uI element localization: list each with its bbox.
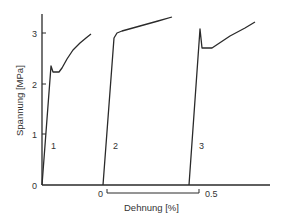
scale-end-label: 0.5 [205, 189, 218, 199]
scale-start-label: 0 [98, 189, 103, 199]
ytick-2: 2 [32, 80, 37, 90]
stress-strain-chart: 3 2 1 0 Spannung [MPa] 1 2 3 0 0.5 Dehnu… [0, 0, 283, 218]
curve-1 [42, 34, 91, 185]
curve-label-1: 1 [51, 141, 56, 151]
ytick-0: 0 [32, 181, 37, 191]
ytick-1: 1 [32, 130, 37, 140]
curve-label-3: 3 [199, 141, 204, 151]
x-scale-bar [107, 189, 199, 193]
curve-3 [189, 22, 255, 185]
curve-label-2: 2 [113, 141, 118, 151]
ytick-3: 3 [32, 29, 37, 39]
y-axis-label: Spannung [MPa] [14, 65, 25, 136]
x-axis-label: Dehnung [%] [124, 202, 179, 213]
curve-2 [103, 17, 172, 185]
